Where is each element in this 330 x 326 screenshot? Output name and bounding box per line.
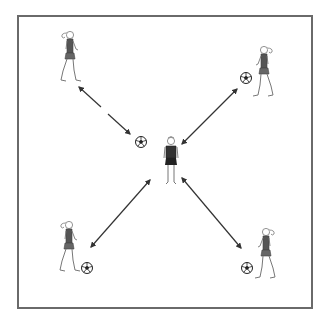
player-center: [164, 137, 178, 185]
player-bottom-left: [60, 221, 80, 271]
arrow-bottom-right: [182, 178, 241, 248]
ball-icon: [242, 263, 253, 274]
drill-diagram: [0, 0, 330, 326]
ball-icon: [82, 263, 93, 274]
arrow-bottom-left: [91, 180, 150, 247]
player-top-right: [253, 46, 273, 96]
arrow-top-right: [182, 89, 237, 144]
ball-icon: [136, 137, 147, 148]
player-bottom-right: [255, 228, 275, 278]
player-top-left: [61, 31, 81, 81]
ball-icon: [241, 73, 252, 84]
arrow-top-left: [79, 87, 130, 134]
diagram-canvas: [0, 0, 330, 326]
